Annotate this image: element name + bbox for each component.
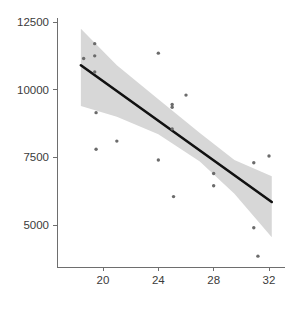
data-point (94, 111, 97, 114)
x-tick-label: 20 (97, 274, 110, 286)
regression-line (81, 65, 272, 202)
data-point (252, 161, 255, 164)
data-point (212, 172, 215, 175)
y-tick-label: 10000 (17, 84, 49, 96)
data-point (184, 93, 187, 96)
data-point (212, 184, 215, 187)
data-point (93, 70, 96, 73)
data-point (170, 127, 173, 130)
x-tick-label: 32 (263, 274, 276, 286)
data-point (157, 51, 160, 54)
plot-canvas: 500075001000012500 20242832 (0, 0, 292, 310)
data-point (93, 54, 96, 57)
y-tick-label: 5000 (23, 219, 49, 231)
data-point (256, 254, 259, 257)
x-tick-label: 24 (152, 274, 165, 286)
y-axis-ticks: 500075001000012500 (17, 16, 57, 231)
scatter-plot-figure: 500075001000012500 20242832 (0, 0, 292, 310)
x-tick-label: 28 (207, 274, 220, 286)
data-point (172, 195, 175, 198)
data-point (82, 57, 85, 60)
data-point (94, 148, 97, 151)
data-point (252, 226, 255, 229)
data-point (267, 154, 270, 157)
data-point (115, 139, 118, 142)
x-axis-ticks: 20242832 (97, 267, 276, 286)
data-point (170, 106, 173, 109)
y-tick-label: 12500 (17, 16, 49, 28)
data-point (93, 42, 96, 45)
data-point (157, 158, 160, 161)
y-tick-label: 7500 (23, 151, 49, 163)
